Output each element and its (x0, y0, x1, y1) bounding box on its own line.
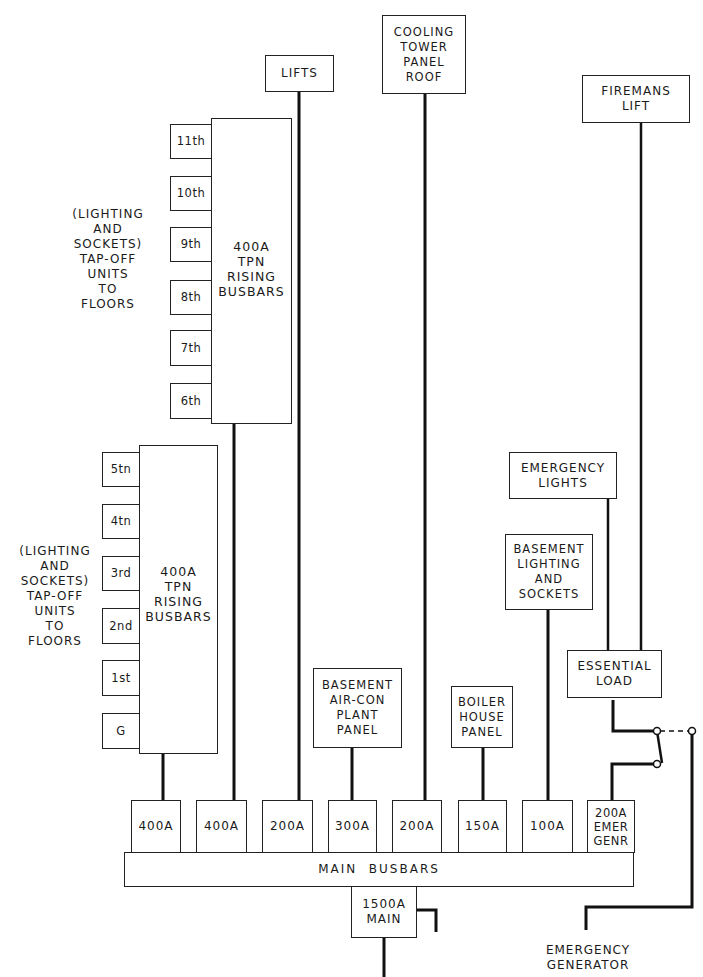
main-switch-1500a: 1500A MAIN (351, 886, 417, 938)
floor-tapoff-1st: 1st (102, 660, 140, 696)
basement-lighting-panel: BASEMENT LIGHTING AND SOCKETS (505, 534, 593, 610)
main-busbars: MAIN BUSBARS (124, 852, 634, 887)
emergency-generator-label: EMERGENCY GENERATOR (528, 943, 648, 973)
cooling-tower-panel: COOLING TOWER PANEL ROOF (382, 15, 466, 94)
floor-tapoff-6th: 6th (170, 383, 212, 419)
lifts-panel: LIFTS (265, 55, 334, 92)
breaker-100a-basement-lighting: 100A (522, 800, 573, 853)
upper-riser-note: (LIGHTING AND SOCKETS) TAP-OFF UNITS TO … (48, 207, 168, 312)
basement-aircon-panel: BASEMENT AIR-CON PLANT PANEL (313, 668, 402, 748)
floor-tapoff-8th: 8th (170, 280, 212, 315)
breaker-400a-lower-riser: 400A (131, 800, 181, 853)
breaker-300a-aircon: 300A (328, 800, 377, 853)
breaker-400a-upper-riser: 400A (196, 800, 247, 853)
switch-contact-icon (654, 761, 661, 768)
essential-load-panel: ESSENTIAL LOAD (567, 650, 662, 698)
breaker-200a-cooling-tower: 200A (392, 800, 442, 853)
emergency-lights-panel: EMERGENCY LIGHTS (509, 452, 617, 499)
breaker-150a-boiler: 150A (458, 800, 507, 853)
switch-contact-icon (654, 728, 661, 735)
firemans-lift-panel: FIREMANS LIFT (582, 75, 690, 123)
floor-tapoff-9th: 9th (170, 227, 212, 262)
floor-tapoff-3rd: 3rd (102, 556, 140, 591)
upper-rising-busbar: 400A TPN RISING BUSBARS (211, 118, 292, 424)
lower-rising-busbar: 400A TPN RISING BUSBARS (139, 445, 218, 754)
floor-tapoff-2nd: 2nd (102, 608, 140, 644)
floor-tapoff-7th: 7th (170, 330, 212, 366)
floor-tapoff-ground: G (102, 713, 140, 749)
breaker-200a-lifts: 200A (262, 800, 313, 853)
floor-tapoff-11th: 11th (170, 124, 212, 159)
floor-tapoff-4th: 4tn (102, 504, 140, 539)
floor-tapoff-5th: 5tn (102, 452, 140, 487)
switch-contact-icon (689, 728, 696, 735)
lower-riser-note: (LIGHTING AND SOCKETS) TAP-OFF UNITS TO … (0, 544, 110, 649)
boiler-house-panel: BOILER HOUSE PANEL (451, 686, 513, 748)
floor-tapoff-10th: 10th (170, 176, 212, 211)
breaker-200a-emergency-genr: 200A EMER GENR (587, 800, 635, 853)
